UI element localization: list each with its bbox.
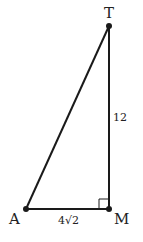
point-A: [23, 206, 29, 212]
label-T: T: [104, 4, 114, 22]
label-M: M: [114, 210, 129, 228]
length-label-TM: 12: [113, 111, 127, 124]
segment-AT: [26, 26, 109, 209]
triangle-diagram: T M A 12 4√2: [0, 0, 143, 242]
length-label-AM: 4√2: [58, 214, 79, 227]
label-A: A: [8, 210, 20, 228]
point-T: [106, 23, 112, 29]
point-M: [106, 206, 112, 212]
